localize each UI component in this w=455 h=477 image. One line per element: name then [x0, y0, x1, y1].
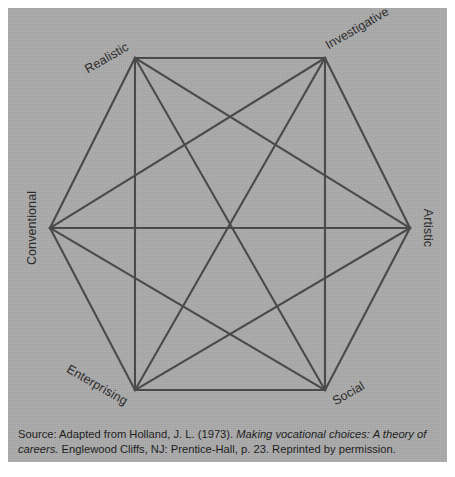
edge-social-conventional: [50, 228, 325, 390]
edge-realistic-artistic: [135, 58, 410, 228]
caption-part-2: Englewood Cliffs, NJ: Prentice-Hall, p. …: [58, 443, 395, 455]
figure-page: Realistic Investigative Artistic Social …: [0, 0, 455, 477]
vertex-label-artistic: Artistic: [421, 209, 435, 247]
edge-investigative-conventional: [50, 58, 325, 228]
edge-artistic-enterprising: [135, 228, 410, 390]
edge-group: [50, 58, 410, 390]
hexagon-diagram: [0, 0, 455, 477]
figure-source-caption: Source: Adapted from Holland, J. L. (197…: [18, 427, 430, 456]
caption-part-1: Source: Adapted from Holland, J. L. (197…: [18, 428, 236, 440]
vertex-label-conventional: Conventional: [25, 191, 39, 265]
